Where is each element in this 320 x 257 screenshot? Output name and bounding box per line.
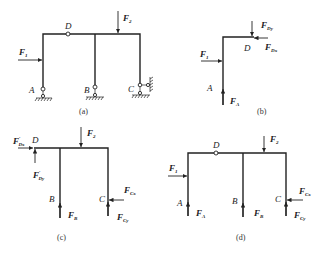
label-c: C (99, 194, 106, 204)
force-fb-label: FB (253, 208, 264, 219)
label-c: C (275, 194, 282, 204)
panel-a: F1 F2 D A B C (a) (18, 11, 153, 116)
label-a: A (206, 83, 213, 93)
force-fdx-label: FDx (264, 42, 278, 53)
force-fcy-label: FCy (116, 212, 129, 223)
force-fa-label: FA (229, 96, 240, 107)
frame-figure: F1 F2 D A B C (a) F1 FDy FDx FA D A (b) … (0, 0, 320, 257)
force-f1-label: F1 (168, 163, 178, 174)
force-fdy-prime-label: F′Dy (32, 170, 45, 181)
hinge-d (214, 151, 218, 155)
caption-d: (d) (236, 233, 246, 242)
frame-members (188, 153, 286, 216)
fixed-support-c (132, 77, 153, 98)
label-b: B (232, 196, 238, 206)
label-b: B (84, 85, 90, 95)
label-b: B (49, 194, 55, 204)
force-fdy-label: FDy (260, 20, 274, 31)
label-c: C (128, 84, 135, 94)
frame-members (43, 34, 140, 88)
force-fcy-label: FCy (293, 210, 306, 221)
label-a: A (176, 198, 183, 208)
force-fa-label: FA (195, 208, 206, 219)
force-f2-label: F2 (269, 134, 279, 145)
label-a: A (28, 85, 35, 95)
panel-b: F1 FDy FDx FA D A (b) (199, 20, 278, 116)
force-f2-label: F2 (86, 128, 96, 139)
label-d: D (31, 135, 39, 145)
caption-c: (c) (57, 233, 66, 242)
panel-d: F1 F2 FA FB FCx FCy D A B C (d) (168, 134, 311, 242)
label-d: D (212, 140, 220, 150)
force-fdx-prime-label: F′Dx (12, 136, 25, 147)
force-f1-label: F1 (199, 49, 209, 60)
label-d: D (243, 43, 251, 53)
caption-a: (a) (79, 107, 88, 116)
force-f1-label: F1 (18, 47, 28, 58)
force-fcx-label: FCx (298, 186, 311, 197)
hinge-d (66, 32, 70, 36)
pin-support-a (35, 87, 52, 101)
force-fcx-label: FCx (123, 185, 136, 196)
force-fb-label: FB (67, 210, 78, 221)
member-dbc-top (34, 148, 108, 216)
label-d: D (64, 21, 72, 31)
force-f2-label: F2 (122, 13, 132, 24)
panel-c: F′Dx F′Dy F2 FB FCx FCy D B C (c) (12, 127, 136, 242)
caption-b: (b) (257, 107, 267, 116)
